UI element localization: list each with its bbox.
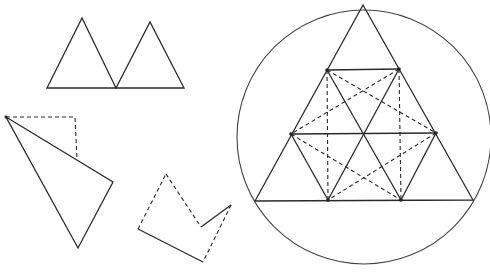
grid-line-diag-2	[328, 69, 399, 200]
vertex-b	[397, 67, 401, 71]
dashed-diag-upper-2	[291, 69, 399, 134]
dashed-diag-lower-2	[328, 133, 436, 200]
vertex-dot	[5, 116, 8, 119]
vertex-e	[434, 131, 438, 135]
outer-triangle	[255, 5, 473, 201]
diagram-canvas	[0, 0, 490, 272]
grid-line-diag-4	[401, 133, 436, 200]
right-triangle	[116, 22, 184, 88]
right-dashed-edge	[203, 205, 231, 262]
vertex-f	[326, 198, 330, 202]
circumcircle	[237, 10, 490, 264]
vertex-g	[399, 198, 403, 202]
dashed-diag-lower-1	[291, 134, 401, 200]
grid-line-diag-3	[291, 134, 328, 200]
bottom-solid-edge	[138, 229, 203, 262]
inscribed-triangle-figure	[237, 5, 490, 264]
vertex-a	[325, 68, 329, 72]
folded-triangle-figure	[5, 116, 114, 249]
dashed-vertical-right	[399, 69, 401, 200]
vertex-c	[289, 132, 293, 136]
notched-pentagon-figure	[138, 174, 231, 262]
left-triangle	[47, 18, 116, 88]
left-dashed-edge	[138, 174, 166, 229]
dashed-vertical-left	[327, 70, 328, 200]
main-triangle	[6, 117, 113, 248]
notch-dashed-edge	[166, 174, 201, 227]
notch-solid-edge	[201, 205, 231, 227]
grid-line-top	[327, 69, 399, 70]
two-triangles-figure	[47, 18, 184, 88]
